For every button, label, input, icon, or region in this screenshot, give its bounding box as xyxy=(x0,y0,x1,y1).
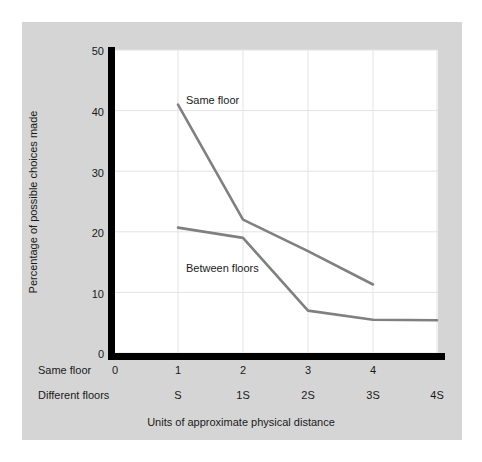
x-axis-row-label-same-floor: Same floor xyxy=(38,364,91,376)
x-tick-same-0: 0 xyxy=(95,364,135,376)
x-axis-row-label-different-floors: Different floors xyxy=(38,389,109,401)
y-tick-label: 20 xyxy=(76,228,104,239)
x-axis-line xyxy=(108,353,445,360)
x-tick-diff-1: S xyxy=(158,389,198,401)
y-tick-label: 40 xyxy=(76,107,104,118)
x-axis-title: Units of approximate physical distance xyxy=(0,416,482,428)
x-tick-same-4: 4 xyxy=(353,364,393,376)
x-tick-same-3: 3 xyxy=(288,364,328,376)
y-axis-title: Percentage of possible choices made xyxy=(27,107,39,297)
x-axis-row-same-floor: Same floor 0 1 2 3 4 xyxy=(0,364,482,380)
y-tick-label: 0 xyxy=(76,349,104,360)
x-tick-diff-3: 2S xyxy=(288,389,328,401)
series-line-same-floor xyxy=(178,105,373,285)
x-tick-same-2: 2 xyxy=(223,364,263,376)
x-tick-diff-4: 3S xyxy=(353,389,393,401)
data-series xyxy=(115,50,438,353)
y-tick-label: 10 xyxy=(76,289,104,300)
x-axis-row-different-floors: Different floors S 1S 2S 3S 4S xyxy=(0,389,482,405)
chart-figure: 50 40 30 20 10 0 Percentage of possible … xyxy=(0,0,482,462)
y-tick-label: 30 xyxy=(76,168,104,179)
series-annotation-same-floor: Same floor xyxy=(186,94,239,106)
y-axis-line xyxy=(108,47,115,356)
x-tick-same-1: 1 xyxy=(158,364,198,376)
plot-area xyxy=(115,50,438,353)
series-annotation-between-floors: Between floors xyxy=(186,262,259,274)
y-tick-label: 50 xyxy=(76,46,104,57)
x-tick-diff-5: 4S xyxy=(417,389,457,401)
x-tick-diff-2: 1S xyxy=(223,389,263,401)
